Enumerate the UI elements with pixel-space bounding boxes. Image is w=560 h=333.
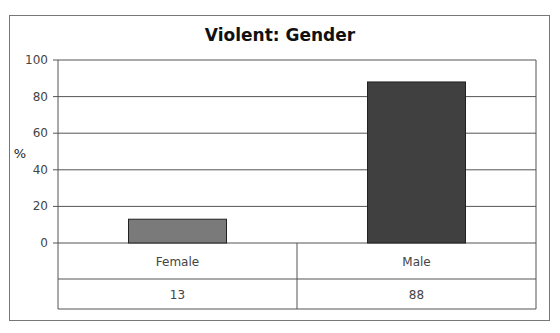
bar-male: [368, 82, 466, 243]
y-tick-label: 100: [25, 53, 48, 67]
y-tick-label: 80: [33, 90, 48, 104]
chart-svg: Violent: Gender % 020406080100 Female13M…: [0, 0, 560, 333]
y-tick-label: 20: [33, 199, 48, 213]
x-category-label: Female: [156, 255, 199, 269]
y-tick-label: 0: [40, 236, 48, 250]
chart-title: Violent: Gender: [205, 25, 356, 45]
y-tick-label: 60: [33, 126, 48, 140]
y-axis-label: %: [14, 146, 26, 161]
bar-female: [129, 219, 227, 243]
data-table-value: 88: [409, 288, 424, 302]
data-table-value: 13: [170, 288, 185, 302]
x-category-label: Male: [402, 255, 430, 269]
y-tick-label: 40: [33, 163, 48, 177]
